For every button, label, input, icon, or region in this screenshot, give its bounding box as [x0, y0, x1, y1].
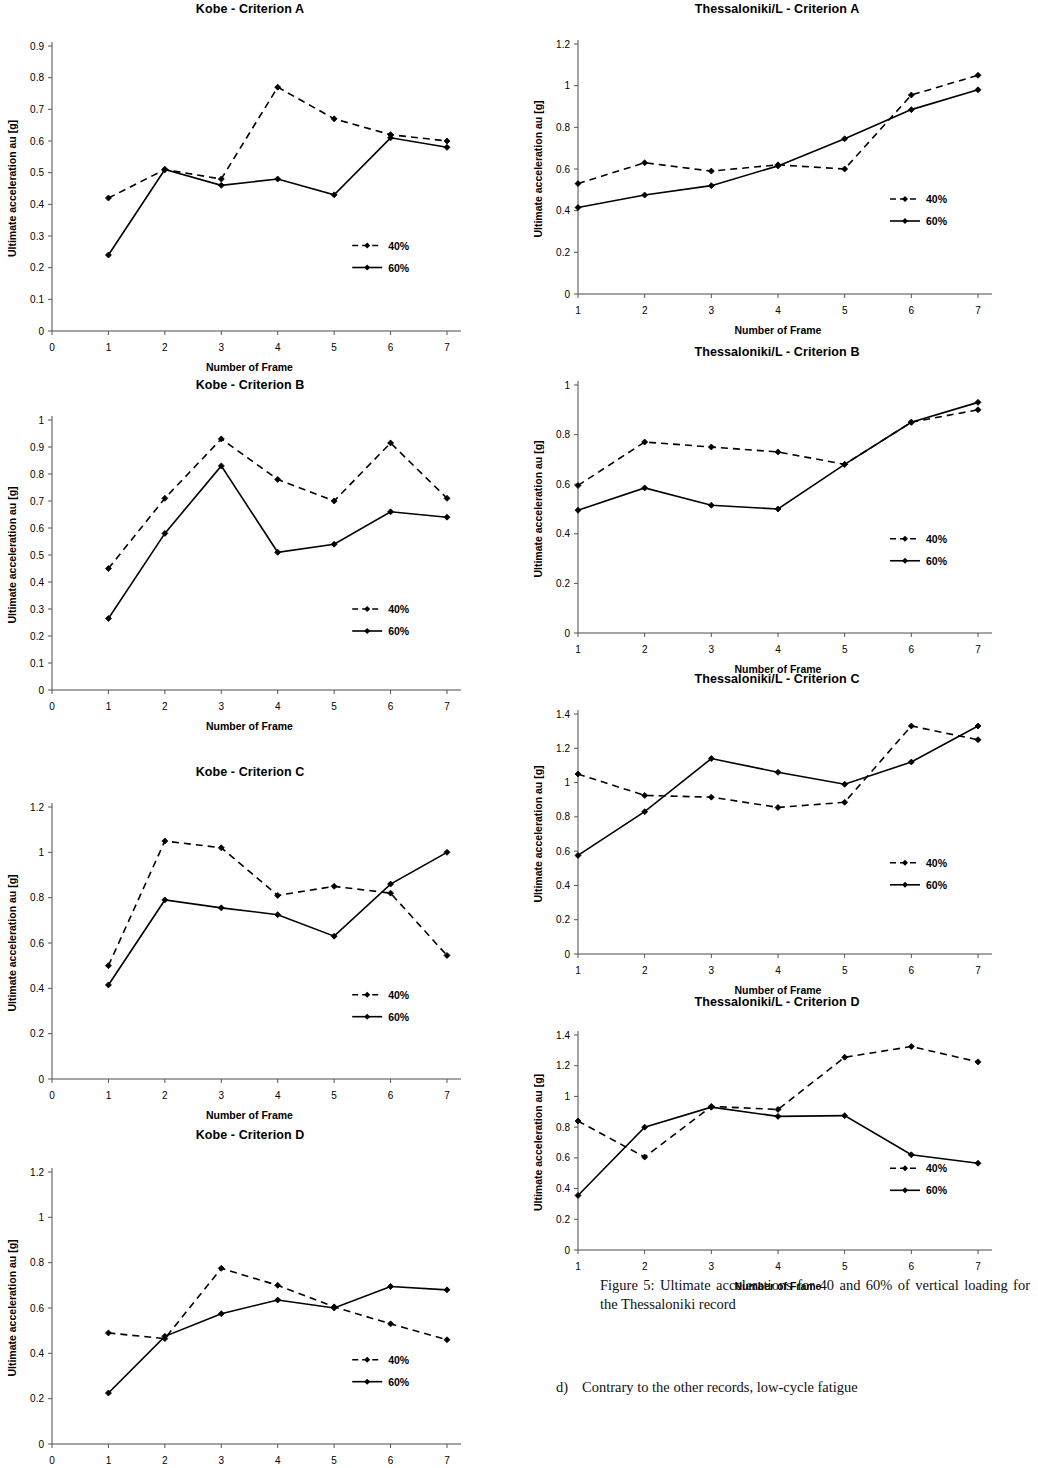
- x-tick-label: 2: [642, 644, 648, 655]
- x-tick-label: 4: [775, 305, 781, 316]
- y-tick-label: 1.4: [556, 709, 570, 720]
- series-line-40: [578, 1047, 978, 1158]
- y-tick-label: 0.5: [30, 550, 44, 561]
- data-point-marker: [275, 912, 281, 918]
- x-tick-label: 0: [49, 1090, 55, 1101]
- chart-plot-area: 00.20.40.60.811.21.41234567Number of Fra…: [516, 686, 1038, 986]
- x-tick-label: 0: [49, 342, 55, 353]
- x-tick-label: 6: [909, 644, 915, 655]
- y-tick-label: 0.4: [30, 199, 44, 210]
- y-tick-label: 0: [38, 1074, 44, 1085]
- x-tick-label: 2: [162, 1090, 168, 1101]
- data-point-marker: [708, 502, 714, 508]
- y-tick-label: 0.4: [30, 983, 44, 994]
- chart-plot-area: 00.10.20.30.40.50.60.70.80.9101234567Num…: [0, 392, 500, 717]
- y-tick-label: 0.8: [556, 122, 570, 133]
- data-point-marker: [388, 1321, 394, 1327]
- y-tick-label: 0.4: [30, 577, 44, 588]
- x-tick-label: 4: [775, 1261, 781, 1272]
- y-tick-label: 0.8: [556, 1122, 570, 1133]
- data-point-marker: [275, 176, 281, 182]
- series-line-60: [578, 402, 978, 510]
- data-point-marker: [444, 138, 450, 144]
- y-tick-label: 0.2: [556, 578, 570, 589]
- data-point-marker: [642, 485, 648, 491]
- x-tick-label: 7: [444, 1455, 450, 1466]
- series-line-40: [578, 726, 978, 807]
- x-tick-label: 3: [219, 342, 225, 353]
- legend-label-40: 40%: [926, 1162, 948, 1174]
- legend-label-60: 60%: [926, 879, 948, 891]
- y-tick-label: 0: [564, 1245, 570, 1256]
- x-tick-label: 3: [709, 965, 715, 976]
- series-line-40: [108, 841, 447, 966]
- x-tick-label: 7: [444, 342, 450, 353]
- x-tick-label: 2: [162, 1455, 168, 1466]
- data-point-marker: [775, 804, 781, 810]
- data-point-marker: [444, 514, 450, 520]
- y-tick-label: 1.2: [30, 802, 44, 813]
- x-tick-label: 5: [331, 1455, 337, 1466]
- x-tick-label: 2: [642, 305, 648, 316]
- legend-marker-40: [364, 243, 370, 249]
- data-point-marker: [275, 84, 281, 90]
- x-tick-label: 1: [106, 1455, 112, 1466]
- x-tick-label: 7: [444, 1090, 450, 1101]
- x-tick-label: 7: [444, 701, 450, 712]
- legend-label-60: 60%: [388, 1376, 410, 1388]
- data-point-marker: [218, 905, 224, 911]
- x-tick-label: 5: [842, 305, 848, 316]
- x-tick-label: 3: [219, 701, 225, 712]
- y-axis-title: Ultimate acceleration au [g]: [532, 100, 544, 237]
- x-tick-label: 1: [575, 1261, 581, 1272]
- legend-label-60: 60%: [926, 215, 948, 227]
- data-point-marker: [975, 407, 981, 413]
- y-axis-title: Ultimate acceleration au [g]: [6, 486, 18, 623]
- data-point-marker: [775, 1113, 781, 1119]
- data-point-marker: [575, 771, 581, 777]
- x-tick-label: 7: [975, 1261, 981, 1272]
- legend-label-40: 40%: [926, 193, 948, 205]
- y-tick-label: 1.2: [556, 39, 570, 50]
- x-axis-title: Number of Frame: [206, 720, 293, 732]
- chart-kobe-b: Kobe - Criterion B00.10.20.30.40.50.60.7…: [0, 378, 500, 723]
- x-tick-label: 5: [331, 1090, 337, 1101]
- legend-label-40: 40%: [388, 240, 410, 252]
- legend-label-40: 40%: [388, 1354, 410, 1366]
- chart-thessaloniki-c: Thessaloniki/L - Criterion C00.20.40.60.…: [516, 672, 1038, 992]
- data-point-marker: [575, 181, 581, 187]
- y-axis-title: Ultimate acceleration au [g]: [6, 120, 18, 257]
- data-point-marker: [275, 1282, 281, 1288]
- legend-marker-60: [902, 1187, 908, 1193]
- y-tick-label: 0.4: [556, 880, 570, 891]
- y-tick-label: 0: [564, 289, 570, 300]
- legend-marker-60: [902, 558, 908, 564]
- y-tick-label: 0.2: [556, 914, 570, 925]
- legend-label-60: 60%: [388, 262, 410, 274]
- y-tick-label: 1: [564, 1091, 570, 1102]
- series-line-60: [108, 138, 447, 255]
- legend-label-60: 60%: [926, 555, 948, 567]
- x-tick-label: 2: [642, 1261, 648, 1272]
- x-tick-label: 1: [575, 965, 581, 976]
- x-tick-label: 2: [162, 342, 168, 353]
- x-tick-label: 3: [709, 305, 715, 316]
- data-point-marker: [842, 1054, 848, 1060]
- data-point-marker: [218, 182, 224, 188]
- x-tick-label: 4: [275, 1455, 281, 1466]
- legend-marker-60: [364, 628, 370, 634]
- y-tick-label: 0.3: [30, 604, 44, 615]
- data-point-marker: [331, 116, 337, 122]
- data-point-marker: [444, 1287, 450, 1293]
- y-tick-label: 0.6: [30, 938, 44, 949]
- series-line-60: [108, 852, 447, 985]
- data-point-marker: [708, 794, 714, 800]
- series-line-60: [108, 466, 447, 619]
- body-paragraph-marker: d): [556, 1378, 574, 1397]
- x-tick-label: 5: [331, 342, 337, 353]
- data-point-marker: [908, 723, 914, 729]
- chart-plot-area: 00.20.40.60.811.21.41234567Number of Fra…: [516, 1009, 1038, 1264]
- data-point-marker: [218, 1265, 224, 1271]
- series-line-40: [578, 410, 978, 486]
- x-tick-label: 1: [575, 644, 581, 655]
